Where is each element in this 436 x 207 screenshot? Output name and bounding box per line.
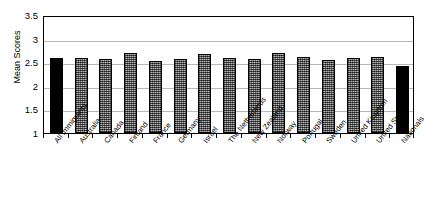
bar-chart: Mean Scores 3.532.521.51 All ImmigrantsA…	[0, 0, 436, 207]
x-tick	[266, 134, 267, 138]
x-tick	[389, 134, 390, 138]
bar-group	[174, 15, 187, 133]
y-tick-label: 3	[16, 35, 38, 44]
bar-group	[322, 15, 335, 133]
bar-group	[272, 15, 285, 133]
x-axis-ticks	[43, 134, 414, 139]
bar[interactable]	[347, 58, 360, 133]
bar[interactable]	[396, 66, 409, 133]
bar[interactable]	[248, 59, 261, 133]
bar[interactable]	[371, 57, 384, 133]
bar[interactable]	[99, 59, 112, 133]
bar-group	[50, 15, 63, 133]
bar[interactable]	[50, 58, 63, 133]
bar-group	[124, 15, 137, 133]
x-tick	[315, 134, 316, 138]
x-tick	[413, 134, 414, 138]
x-tick	[365, 134, 366, 138]
y-tick-label: 3.5	[16, 11, 38, 20]
bar-group	[198, 15, 211, 133]
bar-group	[75, 15, 88, 133]
x-tick	[68, 134, 69, 138]
y-tick-label: 1.5	[16, 105, 38, 114]
x-tick	[117, 134, 118, 138]
bar[interactable]	[223, 58, 236, 133]
x-tick	[241, 134, 242, 138]
y-tick-label: 1	[16, 129, 38, 138]
x-tick	[290, 134, 291, 138]
x-tick	[340, 134, 341, 138]
x-tick	[167, 134, 168, 138]
bar-group	[297, 15, 310, 133]
x-tick	[191, 134, 192, 138]
y-axis-tick-labels: 3.532.521.51	[12, 0, 38, 207]
y-tick-label: 2	[16, 82, 38, 91]
bar[interactable]	[75, 58, 88, 133]
bar-group	[347, 15, 360, 133]
bar[interactable]	[297, 57, 310, 133]
plot-area	[43, 16, 414, 134]
bar-group	[223, 15, 236, 133]
bar-group	[99, 15, 112, 133]
bar-series	[44, 17, 413, 133]
bar[interactable]	[322, 60, 335, 133]
y-tick-label: 2.5	[16, 58, 38, 67]
bar[interactable]	[124, 53, 137, 133]
bar-group	[396, 15, 409, 133]
bar-group	[248, 15, 261, 133]
x-tick	[142, 134, 143, 138]
bar[interactable]	[272, 53, 285, 133]
bar[interactable]	[198, 54, 211, 133]
bar[interactable]	[149, 61, 162, 133]
x-tick	[92, 134, 93, 138]
bar-group	[371, 15, 384, 133]
bar-group	[149, 15, 162, 133]
x-tick	[43, 134, 44, 138]
bar[interactable]	[174, 59, 187, 133]
x-tick	[216, 134, 217, 138]
